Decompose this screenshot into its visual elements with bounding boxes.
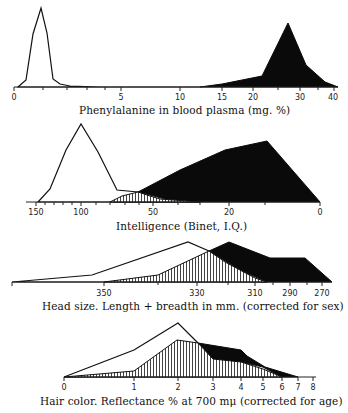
svg-text:5: 5: [118, 93, 123, 102]
svg-text:4: 4: [238, 383, 243, 392]
svg-text:270: 270: [314, 289, 329, 298]
svg-text:20: 20: [224, 208, 234, 217]
x-axis-tick-labels: 350 330 310 290 270: [96, 289, 329, 298]
svg-text:350: 350: [96, 289, 111, 298]
figure-canvas: 0 5 10 15 20 30 40 150 100 50 20 0: [0, 0, 348, 413]
svg-text:1: 1: [131, 383, 136, 392]
chart-intelligence: 150 100 50 20 0: [26, 124, 323, 217]
svg-text:330: 330: [189, 289, 204, 298]
svg-text:310: 310: [247, 289, 262, 298]
x-axis-tick-labels: 150 100 50 20 0: [28, 208, 322, 217]
svg-text:3: 3: [210, 383, 215, 392]
svg-text:15: 15: [217, 93, 227, 102]
svg-text:290: 290: [282, 289, 297, 298]
x-axis-tick-labels: 0 5 10 15 20 30 40: [11, 93, 338, 102]
caption-phenylalanine: Phenylalanine in blood plasma (mg. %): [79, 104, 290, 116]
chart-head-size: 350 330 310 290 270: [12, 242, 332, 298]
svg-text:40: 40: [328, 93, 338, 102]
x-axis-tick-labels: 0 1 2 3 4 5 6 7 8: [61, 383, 315, 392]
svg-text:6: 6: [279, 383, 284, 392]
svg-text:10: 10: [175, 93, 185, 102]
svg-text:0: 0: [61, 383, 66, 392]
svg-text:150: 150: [28, 208, 43, 217]
caption-intelligence: Intelligence (Binet, I.Q.): [116, 220, 247, 232]
phenylketonuric-distribution: [138, 141, 320, 202]
svg-text:20: 20: [248, 93, 258, 102]
chart-phenylalanine: 0 5 10 15 20 30 40: [11, 8, 338, 102]
caption-hair-color: Hair color. Reflectance % at 700 mμ (cor…: [40, 395, 343, 407]
svg-text:50: 50: [148, 208, 158, 217]
svg-text:7: 7: [295, 383, 300, 392]
chart-hair-color: 0 1 2 3 4 5 6 7 8: [61, 323, 316, 392]
caption-head-size: Head size. Length + breadth in mm. (corr…: [42, 300, 344, 312]
svg-text:2: 2: [175, 383, 180, 392]
svg-text:100: 100: [73, 208, 88, 217]
svg-text:5: 5: [260, 383, 265, 392]
phenylketonuric-distribution: [200, 23, 338, 87]
normal-distribution: [18, 8, 200, 87]
svg-text:0: 0: [317, 208, 322, 217]
svg-text:0: 0: [11, 93, 16, 102]
svg-text:30: 30: [295, 93, 305, 102]
svg-text:8: 8: [310, 383, 315, 392]
